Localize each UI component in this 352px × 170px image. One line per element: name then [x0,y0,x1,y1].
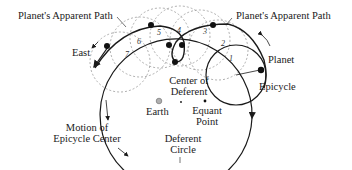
position-5: 5 [157,28,161,37]
position-3: 3 [203,27,207,36]
position-7: 7 [125,50,129,59]
earth-label: Earth [146,106,169,117]
apparent-path-right-label: Planet's Apparent Path [236,10,331,21]
position-6: 6 [137,37,141,46]
position-2: 2 [221,39,225,48]
equant-dot [204,100,207,103]
motion-label: Motion of Epicycle Center [50,122,124,144]
center-dot [180,101,182,103]
epicycle-diagram: 1 2 3 4 5 6 7 Planet's Apparent Path Pla… [0,0,352,170]
east-label: East [72,47,90,58]
equant-point-label: Equant Point [187,105,227,127]
earth-icon [156,98,162,104]
deferent-circle-label: Deferent Circle [160,133,206,155]
center-of-deferent-label: Center of Deferent [159,75,219,97]
planet-label: Planet [268,54,294,65]
apparent-path-left-label: Planet's Apparent Path [18,10,113,21]
position-1: 1 [229,54,233,63]
position-4: 4 [177,26,181,35]
epicycle-label: Epicycle [259,81,296,92]
